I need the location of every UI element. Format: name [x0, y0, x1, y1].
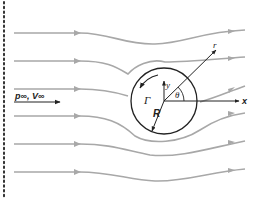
flow-diagram: p∞, V∞ Γ y x r θ R — [0, 0, 255, 199]
y-axis-label: y — [165, 80, 170, 90]
circulation-label: Γ — [143, 94, 151, 106]
arrow-icon — [74, 86, 81, 92]
x-axis-label: x — [241, 96, 248, 106]
arrow-icon — [74, 141, 81, 147]
streamline-5 — [14, 141, 245, 156]
streamline-1 — [14, 30, 245, 44]
arrow-icon — [74, 169, 81, 175]
streamline-6 — [14, 169, 245, 181]
theta-label: θ — [175, 90, 180, 100]
arrow-icon — [74, 58, 81, 64]
arrow-icon — [74, 113, 81, 119]
streamline-3b — [200, 86, 245, 102]
streamlines — [14, 30, 245, 181]
arrow-icon — [74, 30, 81, 36]
streamline-2 — [14, 57, 245, 74]
streamline-4 — [14, 113, 245, 142]
radius-label: R — [153, 108, 161, 119]
r-label: r — [213, 40, 217, 50]
freestream-label: p∞, V∞ — [14, 91, 45, 101]
